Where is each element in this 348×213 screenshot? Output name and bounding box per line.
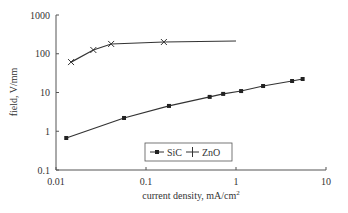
legend-zno-label: ZnO: [202, 147, 220, 158]
x-marker-icon: [90, 47, 96, 53]
series-line-sic: [66, 79, 302, 138]
square-marker-icon: [239, 89, 243, 93]
square-marker-icon: [64, 136, 68, 140]
x-tick-label: 10: [321, 176, 331, 187]
legend-sic-label: SiC: [167, 147, 182, 158]
series-lines: [64, 39, 304, 140]
legend: SiC ZnO: [145, 143, 232, 161]
square-marker-icon: [290, 79, 294, 83]
y-tick-label: 1000: [30, 10, 50, 21]
y-tick-label: 0.1: [38, 165, 51, 176]
square-marker-icon: [261, 84, 265, 88]
x-axis-label: current density, mA/cm2: [142, 189, 240, 201]
y-tick-label: 1: [45, 126, 50, 137]
legend-square-marker-icon: [155, 150, 159, 154]
x-tick-label: 1: [234, 176, 239, 187]
y-tick-labels: 0.11101001000: [30, 10, 50, 176]
x-marker-icon: [68, 59, 74, 65]
square-marker-icon: [122, 116, 126, 120]
y-axis-label: field, V/mm: [8, 67, 19, 116]
square-marker-icon: [221, 92, 225, 96]
x-tick-label: 0.1: [140, 176, 153, 187]
y-tick-label: 10: [40, 87, 50, 98]
square-marker-icon: [167, 104, 171, 108]
series-line-zno: [71, 41, 236, 62]
y-tick-label: 100: [35, 48, 50, 59]
square-marker-icon: [208, 95, 212, 99]
x-tick-labels: 0.010.1110: [47, 176, 331, 187]
x-tick-label: 0.01: [47, 176, 65, 187]
square-marker-icon: [301, 77, 305, 81]
chart: 0.11101001000 0.010.1110 field, V/mm cur…: [0, 0, 348, 213]
